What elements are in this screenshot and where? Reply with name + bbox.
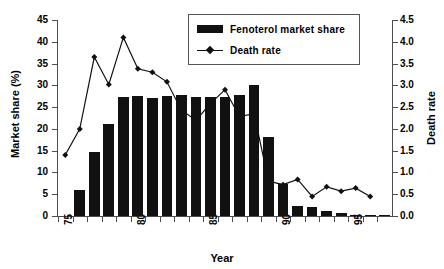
y-axis-left-tick [52,172,57,173]
x-axis-tick [261,217,262,222]
y-axis-right-tick [393,107,398,108]
y-axis-left-tick [52,85,57,86]
x-axis-tick [377,217,378,222]
legend-bar-swatch-icon [197,25,223,33]
death-rate-marker [106,81,112,87]
x-axis-tick [363,217,364,222]
legend-item-death-rate: Death rate [197,42,281,58]
x-axis-tick [203,217,204,222]
y-axis-left-tick [52,151,57,152]
legend-line-swatch-icon [197,46,223,55]
y-axis-left-tick-label: 45 [20,15,48,25]
x-axis-tick [319,217,320,222]
x-axis-line [57,216,393,217]
death-rate-marker [338,188,344,194]
x-axis-tick [189,217,190,222]
x-axis-tick [87,217,88,222]
death-rate-marker [367,193,373,199]
y-axis-right-tick-label: 1.5 [400,146,428,156]
y-axis-left-tick-label: 35 [20,59,48,69]
x-axis-tick [73,217,74,222]
y-axis-left-tick-label: 20 [20,124,48,134]
x-axis-tick [102,217,103,222]
y-axis-right-tick [393,20,398,21]
y-axis-left-tick [52,64,57,65]
y-axis-left-tick [52,216,57,217]
y-axis-right-tick [393,216,398,217]
y-axis-right-tick [393,194,398,195]
x-axis-tick [116,217,117,222]
x-axis-title: Year [0,252,444,264]
death-rate-marker [77,126,83,132]
x-axis-tick [160,217,161,222]
y-axis-right-tick [393,42,398,43]
death-rate-marker [280,182,286,188]
y-axis-right-tick-label: 4.0 [400,37,428,47]
death-rate-marker [353,185,359,191]
death-rate-marker [266,178,272,184]
x-axis-tick [247,217,248,222]
death-rate-marker [251,111,257,117]
y-axis-left-tick [52,194,57,195]
legend-label-fenoterol-market-share: Fenoterol market share [230,24,345,35]
y-axis-left-tick-label: 30 [20,80,48,90]
y-axis-left-tick-label: 5 [20,189,48,199]
death-rate-marker [237,114,243,120]
x-axis-tick [348,217,349,222]
x-axis-tick [145,217,146,222]
y-axis-right-tick-label: 3.0 [400,80,428,90]
y-axis-left-title: Market share (%) [9,54,21,174]
chart-figure: Market share (%) Death rate Year 0510152… [0,0,444,269]
y-axis-right-tick-label: 4.5 [400,15,428,25]
y-axis-left-tick [52,129,57,130]
y-axis-right-tick [393,151,398,152]
x-axis-tick [58,217,59,222]
y-axis-right-tick [393,172,398,173]
x-axis-tick [174,217,175,222]
y-axis-left-tick [52,20,57,21]
y-axis-left-tick-label: 40 [20,37,48,47]
y-axis-right-tick-label: 2.0 [400,124,428,134]
y-axis-left-tick-label: 25 [20,102,48,112]
death-rate-marker [91,54,97,60]
x-axis-tick [305,217,306,222]
death-rate-marker [62,152,68,158]
y-axis-right-tick [393,129,398,130]
x-axis-tick [276,217,277,222]
x-axis-tick [218,217,219,222]
chart-legend: Fenoterol market share Death rate [188,14,360,65]
y-axis-right-tick [393,85,398,86]
y-axis-left-tick-label: 10 [20,167,48,177]
y-axis-right-tick-label: 0.5 [400,189,428,199]
death-rate-marker [135,66,141,72]
x-axis-tick [131,217,132,222]
y-axis-right-tick-label: 0.0 [400,211,428,221]
y-axis-left-tick [52,42,57,43]
y-axis-right-tick-label: 1.0 [400,167,428,177]
y-axis-left-tick-label: 15 [20,146,48,156]
death-rate-marker [120,34,126,40]
x-axis-tick [232,217,233,222]
y-axis-right-tick [393,64,398,65]
y-axis-left-tick [52,107,57,108]
y-axis-left-tick-label: 0 [20,211,48,221]
legend-item-fenoterol-market-share: Fenoterol market share [197,21,345,37]
legend-label-death-rate: Death rate [230,45,281,56]
x-axis-tick [334,217,335,222]
x-axis-tick [290,217,291,222]
y-axis-right-line [392,20,393,217]
y-axis-right-tick-label: 2.5 [400,102,428,112]
y-axis-right-tick-label: 3.5 [400,59,428,69]
